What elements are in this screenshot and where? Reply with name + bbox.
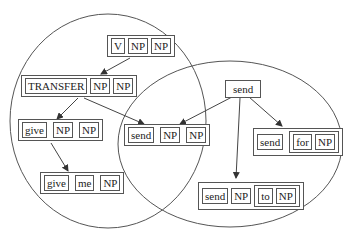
edge-send-send-np-to-np	[236, 98, 240, 178]
cell-np: NP	[113, 78, 133, 94]
node-v-np-np: V NP NP	[107, 35, 175, 57]
cell-give: give	[44, 175, 69, 191]
cell-np: NP	[79, 122, 99, 138]
node-send-np-np: send NP NP	[124, 124, 210, 146]
cell-np: NP	[160, 127, 180, 143]
cell-v: V	[111, 38, 125, 54]
cell-np: NP	[231, 188, 251, 204]
cell-np: NP	[90, 78, 110, 94]
node-give-np-np: give NP NP	[18, 119, 103, 141]
edge-send-send-for-np	[249, 97, 282, 126]
cell-to: to	[258, 188, 273, 204]
node-give-me-np: give me NP	[40, 172, 124, 194]
node-transfer-np-np: TRANSFER NP NP	[21, 75, 137, 97]
cell-send: send	[257, 134, 283, 150]
cell-np: NP	[53, 122, 73, 138]
pp-group-to: to NP	[254, 185, 300, 207]
cell-me: me	[75, 175, 94, 191]
cell-np: NP	[151, 38, 171, 54]
cell-np: NP	[128, 38, 148, 54]
cell-send: send	[202, 188, 228, 204]
cell-for: for	[293, 134, 312, 150]
cell-np: NP	[100, 175, 120, 191]
node-send-for-np: send for NP	[253, 128, 343, 156]
label-send: send	[232, 83, 254, 95]
cell-np: NP	[186, 127, 206, 143]
edge-transfer-give	[57, 98, 78, 119]
edge-give-giveme	[51, 143, 68, 171]
cell-transfer: TRANSFER	[25, 78, 87, 94]
cell-give: give	[22, 122, 47, 138]
cell-send: send	[128, 127, 154, 143]
node-send-np-to-np: send NP to NP	[198, 182, 304, 210]
node-send: send	[225, 80, 261, 98]
cell-np: NP	[315, 134, 335, 150]
pp-group-for: for NP	[289, 131, 339, 153]
cell-np: NP	[276, 188, 296, 204]
edge-vnpnp-transfer	[101, 58, 130, 74]
